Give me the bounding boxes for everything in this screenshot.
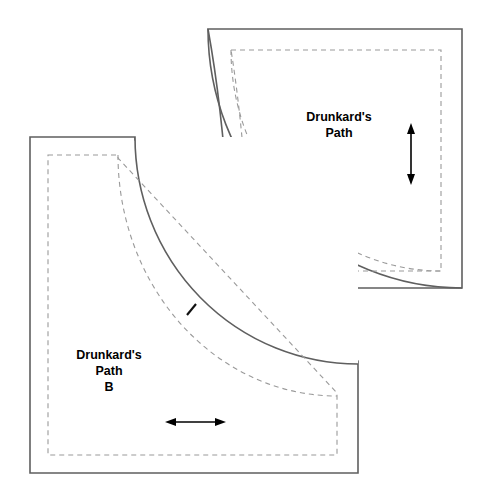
drunkards-path-template-svg: Drunkard's Path A Drunkard's	[0, 0, 490, 504]
piece-b-label-line2: Path	[95, 364, 122, 378]
piece-b-label-line1: Drunkard's	[76, 348, 142, 362]
piece-a-label-line1: Drunkard's	[306, 110, 372, 124]
pattern-diagram-canvas: Drunkard's Path A Drunkard's	[0, 0, 490, 504]
piece-b-label-line3: B	[104, 380, 113, 394]
piece-b-group[interactable]: Drunkard's Path B	[30, 137, 358, 473]
